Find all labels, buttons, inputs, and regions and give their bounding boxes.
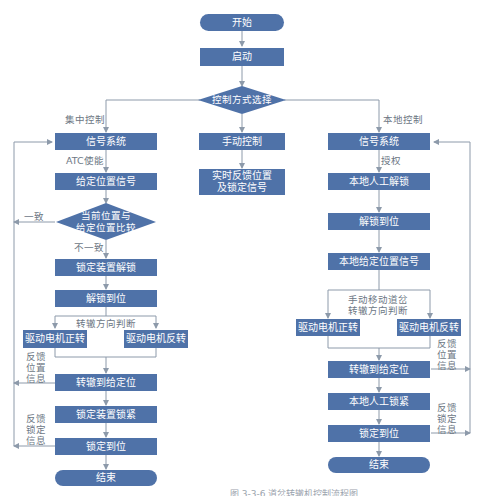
set-position-signal-box: 给定位置信号 <box>55 173 157 190</box>
realtime-feedback-line1: 实时反馈位置 <box>212 170 272 182</box>
choice-diamond-label: 控制方式选择 <box>198 93 286 107</box>
central-lock-done-box: 锁定到位 <box>55 438 157 455</box>
fb-line: 反馈 <box>26 413 50 424</box>
lock-device-box: 锁定装置锁紧 <box>55 406 157 423</box>
atc-enable-label: ATC使能 <box>66 155 104 166</box>
local-unlock-done-box: 解锁到位 <box>328 213 430 230</box>
figure-caption: 图 3-3-6 道岔转辙机控制流程图 <box>230 487 358 496</box>
fb-line: 信息 <box>26 373 50 384</box>
manual-move-line2: 转辙方向判断 <box>348 305 408 316</box>
local-switch-to-position-box: 转辙到给定位 <box>328 361 430 378</box>
realtime-feedback-line2: 及锁定信号 <box>217 182 267 194</box>
local-motor-forward-box: 驱动电机正转 <box>296 319 360 336</box>
direction-judge-label: 转辙方向判断 <box>76 318 136 329</box>
fb-line: 反馈 <box>437 338 461 349</box>
local-feedback-lock-label: 反馈 锁定 信息 <box>437 402 461 435</box>
local-end-terminal: 结束 <box>328 457 430 473</box>
manual-move-label: 手动移动道岔 转辙方向判断 <box>348 294 408 316</box>
central-motor-reverse-box: 驱动电机反转 <box>124 330 188 348</box>
launch-box: 启动 <box>200 48 284 66</box>
central-switch-to-position-box: 转辙到给定位 <box>55 374 157 391</box>
central-motor-forward-box: 驱动电机正转 <box>23 330 87 348</box>
local-signal-system-box: 信号系统 <box>328 133 430 150</box>
authorize-label: 授权 <box>381 155 401 166</box>
compare-line2: 给定位置比较 <box>76 222 136 234</box>
compare-diamond-label: 当前位置与 给定位置比较 <box>62 208 150 236</box>
branch-label-central: 集中控制 <box>65 114 105 125</box>
local-lock-done-box: 锁定到位 <box>328 425 430 442</box>
fb-line: 信息 <box>26 435 50 446</box>
unlock-device-box: 锁定装置解锁 <box>55 259 157 276</box>
fb-line: 信息 <box>437 424 461 435</box>
central-feedback-lock-label: 反馈 锁定 信息 <box>26 413 50 446</box>
local-motor-reverse-box: 驱动电机反转 <box>397 319 461 336</box>
fb-line: 锁定 <box>26 424 50 435</box>
local-set-position-signal-box: 本地给定位置信号 <box>328 253 430 270</box>
compare-line1: 当前位置与 <box>81 210 131 222</box>
local-feedback-position-label: 反馈 位置 信息 <box>437 338 461 371</box>
realtime-feedback-box: 实时反馈位置 及锁定信号 <box>199 169 285 195</box>
central-unlock-done-box: 解锁到位 <box>55 290 157 307</box>
fb-line: 位置 <box>26 362 50 373</box>
start-terminal: 开始 <box>200 14 284 31</box>
consistent-label: 一致 <box>24 211 44 222</box>
manual-move-line1: 手动移动道岔 <box>348 294 408 305</box>
local-manual-unlock-box: 本地人工解锁 <box>328 173 430 190</box>
central-feedback-position-label: 反馈 位置 信息 <box>26 351 50 384</box>
local-manual-lock-box: 本地人工锁紧 <box>328 393 430 410</box>
central-signal-system-box: 信号系统 <box>55 133 157 150</box>
fb-line: 反馈 <box>437 402 461 413</box>
fb-line: 信息 <box>437 360 461 371</box>
fb-line: 反馈 <box>26 351 50 362</box>
fb-line: 位置 <box>437 349 461 360</box>
central-end-terminal: 结束 <box>55 470 157 486</box>
manual-control-box: 手动控制 <box>199 133 285 150</box>
branch-label-local: 本地控制 <box>383 114 423 125</box>
fb-line: 锁定 <box>437 413 461 424</box>
inconsistent-label: 不一致 <box>74 242 104 253</box>
